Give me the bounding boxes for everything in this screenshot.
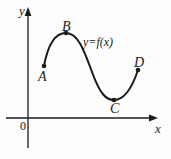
y-axis-arrow-icon <box>25 7 32 16</box>
y-axis-label: y <box>19 4 25 17</box>
graph-canvas <box>0 0 171 159</box>
x-axis-label: x <box>155 122 161 135</box>
function-equation-label: y=f(x) <box>83 36 113 48</box>
point-label-a: A <box>38 70 47 84</box>
origin-label: 0 <box>20 120 26 132</box>
point-label-c: C <box>110 102 119 116</box>
point-label-b: B <box>62 20 71 34</box>
point-label-d: D <box>134 56 144 70</box>
function-graph-figure: A B C D y=f(x) y x 0 <box>0 0 171 159</box>
point-marker-a <box>42 64 47 69</box>
